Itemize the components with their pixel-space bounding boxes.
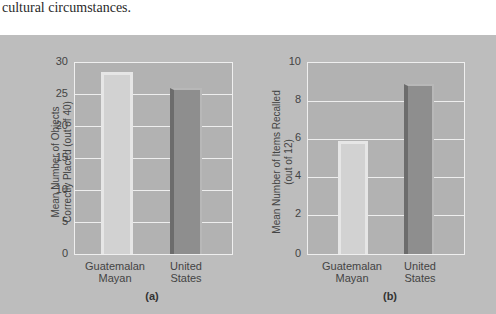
plot-area-b — [307, 62, 465, 255]
y-tick: 0 — [281, 247, 301, 259]
bar-united-states — [170, 88, 202, 254]
y-tick: 4 — [281, 169, 301, 181]
plot-area-a — [74, 62, 233, 255]
gridline — [308, 177, 464, 178]
gridline — [308, 101, 464, 102]
y-tick: 15 — [48, 151, 68, 163]
y-tick: 10 — [281, 55, 301, 67]
x-label-guatemalan-mayan: Guatemalan Mayan — [75, 260, 155, 284]
gridline — [75, 126, 232, 127]
bar-guatemalan-mayan — [101, 72, 133, 254]
y-tick: 20 — [48, 119, 68, 131]
panel-label-a: (a) — [137, 290, 167, 302]
gridline — [308, 215, 464, 216]
gridline — [75, 222, 232, 223]
x-label-line: States — [146, 272, 226, 284]
gridline — [308, 139, 464, 140]
gridline — [75, 190, 232, 191]
x-label-line: States — [380, 272, 460, 284]
y-tick: 25 — [48, 87, 68, 99]
x-label-line: Mayan — [75, 272, 155, 284]
x-label-united-states: United States — [146, 260, 226, 284]
bar-united-states — [404, 84, 434, 254]
y-tick: 6 — [281, 131, 301, 143]
gridline — [75, 94, 232, 95]
x-label-united-states: United States — [380, 260, 460, 284]
y-tick: 2 — [281, 207, 301, 219]
gridline — [75, 158, 232, 159]
y-tick: 0 — [48, 247, 68, 259]
bar-guatemalan-mayan — [338, 141, 368, 254]
x-label-line: United — [146, 260, 226, 272]
y-tick: 5 — [48, 215, 68, 227]
y-tick: 10 — [48, 183, 68, 195]
caption-text: cultural circumstances. — [2, 0, 131, 16]
y-tick: 30 — [48, 55, 68, 67]
panel-label-b: (b) — [375, 290, 405, 302]
x-label-line: Guatemalan — [75, 260, 155, 272]
y-tick: 8 — [281, 93, 301, 105]
x-label-line: United — [380, 260, 460, 272]
